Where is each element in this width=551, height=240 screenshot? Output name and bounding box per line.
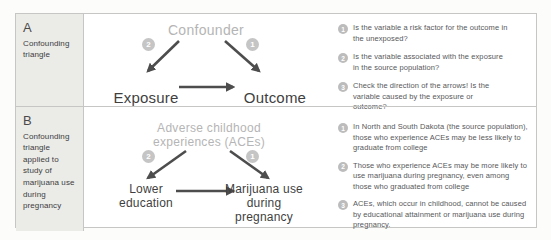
note-text: Those who experience ACEs may be more li… (353, 161, 529, 193)
panel-b-notes: 1 In North and South Dakota (the source … (338, 107, 536, 231)
outcome-node-label: Outcome (244, 89, 306, 106)
note-number-badge: 2 (338, 53, 348, 63)
arrow-badge-1: 1 (246, 150, 259, 163)
marijuana-use-node-label: Marijuana use during pregnancy (222, 183, 306, 224)
panel-a-diagram: Confounder 2 1 Exposure Outcome (84, 14, 338, 106)
note-text: Is the variable associated with the expo… (353, 52, 508, 73)
note-number-badge: 3 (338, 82, 348, 92)
note-number-badge: 2 (338, 162, 348, 172)
note-number-badge: 1 (338, 24, 348, 34)
note-item: 1 In North and South Dakota (the source … (338, 122, 536, 154)
note-item: 2 Those who experience ACEs may be more … (338, 161, 536, 193)
exposure-node-label: Exposure (114, 89, 179, 106)
figure-confounding-triangle: A Confounding triangle Confounder 2 1 (0, 0, 551, 240)
note-text: Is the variable a risk factor for the ou… (353, 23, 508, 44)
panel-b-diagram: Adverse childhood experiences (ACEs) 2 1… (84, 107, 338, 231)
panel-a-notes: 1 Is the variable a risk factor for the … (338, 14, 536, 106)
arrow-badge-1: 1 (246, 38, 259, 51)
panel-a-title: Confounding triangle (23, 38, 77, 61)
panel-a-label-cell: A Confounding triangle (16, 14, 84, 106)
confounder-node-label: Confounder (168, 22, 244, 38)
note-item: 3 ACEs, which occur in childhood, cannot… (338, 199, 536, 231)
panel-b-label-cell: B Confounding triangle applied to study … (16, 107, 84, 231)
panel-b-letter: B (23, 113, 77, 129)
note-item: 1 Is the variable a risk factor for the … (338, 23, 536, 44)
note-text: In North and South Dakota (the source po… (353, 122, 529, 154)
note-text: ACEs, which occur in childhood, cannot b… (353, 199, 529, 231)
panel-b-title: Confounding triangle applied to study of… (23, 131, 77, 212)
panel-a-row: A Confounding triangle Confounder 2 1 (16, 14, 536, 106)
note-number-badge: 1 (338, 123, 348, 133)
arrow-badge-2: 2 (142, 38, 155, 51)
arrow-badge-2: 2 (142, 150, 155, 163)
figure-table: A Confounding triangle Confounder 2 1 (15, 13, 537, 228)
panel-b-row: B Confounding triangle applied to study … (16, 106, 536, 231)
lower-education-node-label: Lower education (111, 183, 181, 211)
note-number-badge: 3 (338, 200, 348, 210)
panel-a-letter: A (23, 20, 77, 36)
note-item: 2 Is the variable associated with the ex… (338, 52, 536, 73)
aces-node-label: Adverse childhood experiences (ACEs) (134, 122, 284, 150)
